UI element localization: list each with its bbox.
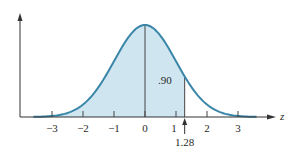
x-tick-label: −1 (108, 122, 120, 134)
x-tick-label: 0 (142, 122, 148, 134)
y-axis-arrow-icon (18, 13, 23, 21)
x-tick-label: 3 (235, 122, 241, 134)
x-axis-label: z (279, 110, 285, 122)
x-tick-label: 2 (204, 122, 210, 134)
x-axis-arrow-icon (267, 115, 276, 120)
normal-distribution-chart: z −3−2−10123 .90 1.28 (0, 0, 293, 153)
x-tick-label: 1 (171, 122, 177, 134)
marker-arrow-icon (182, 118, 187, 125)
area-label: .90 (158, 74, 172, 86)
x-tick-label: −2 (77, 122, 89, 134)
marker-label: 1.28 (175, 136, 195, 148)
x-tick-label: −3 (46, 122, 58, 134)
